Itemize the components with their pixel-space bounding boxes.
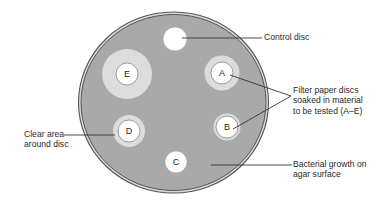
disc-c-letter: C [173,157,180,167]
label-growth-line-1: Bacterial growth on [293,159,367,169]
label-clear-line-1: Clear area [24,129,68,139]
diagram-canvas: E A D B C Control disc Filter paper disc… [0,0,381,203]
label-clear-area: Clear area around disc [24,129,68,150]
label-bacterial-growth: Bacterial growth on agar surface [293,159,367,180]
label-clear-line-2: around disc [24,139,68,149]
label-filter-paper-discs: Filter paper discs soaked in material to… [293,85,363,116]
label-filter-line-1: Filter paper discs [293,85,363,95]
disc-e-letter: E [124,69,130,79]
label-growth-line-2: agar surface [293,169,367,179]
label-control-disc: Control disc [264,32,309,42]
control-disc [163,27,187,51]
disc-d-letter: D [126,126,133,136]
label-filter-line-2: soaked in material [293,95,363,105]
label-filter-line-3: to be tested (A–E) [293,106,363,116]
label-control-disc-text: Control disc [264,32,309,42]
disc-b-letter: B [224,122,230,132]
disc-a-letter: A [219,68,225,78]
